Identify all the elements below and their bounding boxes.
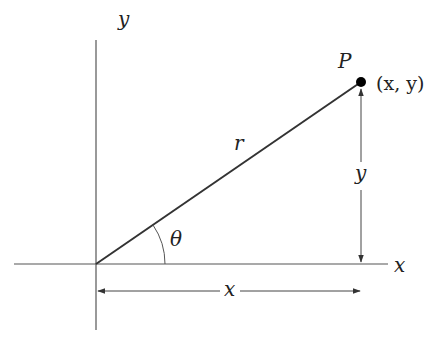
polar-coordinates-diagram: y x P (x, y) r θ y x: [0, 0, 432, 342]
angle-label: θ: [170, 227, 182, 251]
radius-label: r: [234, 131, 245, 155]
horizontal-measure-label: x: [224, 277, 235, 301]
point-coords-label: (x, y): [376, 72, 424, 94]
point-p-marker: [356, 77, 366, 87]
radius-line: [96, 82, 361, 264]
vertical-measure-label: y: [354, 161, 367, 185]
y-axis-label: y: [117, 7, 130, 31]
angle-arc: [153, 225, 165, 264]
x-axis-label: x: [394, 253, 405, 277]
point-name-label: P: [337, 49, 352, 73]
